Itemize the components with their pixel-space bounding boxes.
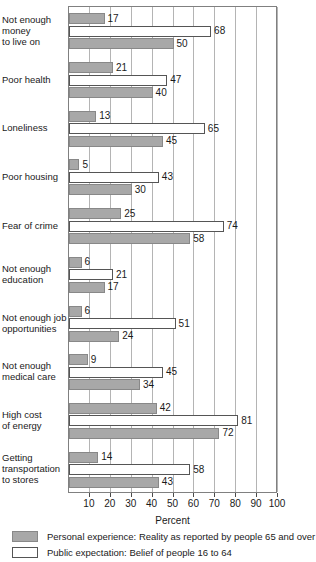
legend-item: Public expectation: Belief of people 16 … xyxy=(12,547,284,558)
category-label-line: Not enough job xyxy=(2,312,68,323)
category-label: Not enoughmoneyto live on xyxy=(2,14,68,47)
bar xyxy=(69,282,105,293)
bar xyxy=(69,269,113,280)
bar-value-label: 65 xyxy=(208,123,219,134)
legend-swatch-gray xyxy=(12,531,38,542)
bar xyxy=(69,111,96,122)
bar-value-label: 58 xyxy=(193,233,204,244)
bar-value-label: 24 xyxy=(122,330,133,341)
category-label-line: education xyxy=(2,274,68,285)
category-label: Not enoughmedical care xyxy=(2,360,68,382)
category-label-line: Not enough xyxy=(2,14,68,25)
bar xyxy=(69,367,163,378)
bar-value-label: 50 xyxy=(177,38,188,49)
bar-value-label: 14 xyxy=(101,451,112,462)
x-tick-mark xyxy=(131,493,132,497)
category-label-line: to live on xyxy=(2,36,68,47)
bar xyxy=(69,184,132,195)
bar xyxy=(69,221,224,232)
category-label: Not enougheducation xyxy=(2,263,68,285)
legend-item: Personal experience: Reality as reported… xyxy=(12,531,284,542)
bar-value-label: 72 xyxy=(222,427,233,438)
plot-area: 1768502147401365455433025745862117651249… xyxy=(68,6,277,493)
bar xyxy=(69,13,105,24)
x-tick-label: 90 xyxy=(245,498,267,509)
bar xyxy=(69,87,153,98)
bar-value-label: 74 xyxy=(227,220,238,231)
bar xyxy=(69,208,121,219)
category-label-line: High cost xyxy=(2,409,68,420)
x-tick-mark xyxy=(214,493,215,497)
bar-value-label: 43 xyxy=(162,171,173,182)
category-label-line: money xyxy=(2,25,68,36)
bar-value-label: 34 xyxy=(143,379,154,390)
plot-wrapper: 1768502147401365455433025745862117651249… xyxy=(0,0,284,500)
bar-value-label: 43 xyxy=(162,476,173,487)
category-label-line: to stores xyxy=(2,474,68,485)
bar xyxy=(69,306,82,317)
bar-value-label: 17 xyxy=(108,281,119,292)
bar-value-label: 42 xyxy=(160,402,171,413)
x-tick-mark xyxy=(152,493,153,497)
bar xyxy=(69,38,174,49)
bar xyxy=(69,257,82,268)
bar xyxy=(69,379,140,390)
bar-value-label: 45 xyxy=(166,135,177,146)
bar-value-label: 30 xyxy=(135,184,146,195)
x-tick-label: 60 xyxy=(182,498,204,509)
x-tick-mark xyxy=(277,493,278,497)
bar-value-label: 21 xyxy=(116,62,127,73)
category-label-line: Getting xyxy=(2,452,68,463)
category-label: Fear of crime xyxy=(2,220,68,231)
gridline-90 xyxy=(256,7,257,492)
bar-value-label: 81 xyxy=(241,415,252,426)
x-tick-label: 20 xyxy=(99,498,121,509)
bar-value-label: 25 xyxy=(124,208,135,219)
bar-value-label: 13 xyxy=(99,110,110,121)
bar-value-label: 51 xyxy=(179,318,190,329)
x-tick-mark xyxy=(89,493,90,497)
bar xyxy=(69,123,205,134)
x-tick-label: 80 xyxy=(224,498,246,509)
category-label-line: transportation xyxy=(2,463,68,474)
chart-legend: Personal experience: Reality as reported… xyxy=(12,531,284,562)
bar xyxy=(69,464,190,475)
category-label-line: opportunities xyxy=(2,323,68,334)
bar xyxy=(69,403,157,414)
category-label: Poor housing xyxy=(2,171,68,182)
x-tick-mark xyxy=(173,493,174,497)
legend-swatch-white xyxy=(12,547,38,558)
x-tick-mark xyxy=(235,493,236,497)
x-tick-label: 30 xyxy=(120,498,142,509)
bar xyxy=(69,428,219,439)
bar xyxy=(69,26,211,37)
bar-value-label: 40 xyxy=(156,87,167,98)
x-tick-mark xyxy=(256,493,257,497)
bar xyxy=(69,62,113,73)
bar-value-label: 68 xyxy=(214,25,225,36)
bar xyxy=(69,331,119,342)
x-tick-mark xyxy=(110,493,111,497)
bar-value-label: 17 xyxy=(108,13,119,24)
category-label-line: Loneliness xyxy=(2,122,68,133)
bar-value-label: 6 xyxy=(85,256,91,267)
bar xyxy=(69,75,167,86)
bar-value-label: 47 xyxy=(170,74,181,85)
category-label-line: Poor housing xyxy=(2,171,68,182)
bar xyxy=(69,415,238,426)
legend-label: Public expectation: Belief of people 16 … xyxy=(47,547,232,558)
x-axis-title: Percent xyxy=(68,515,277,526)
x-tick-label: 10 xyxy=(78,498,100,509)
bar xyxy=(69,136,163,147)
category-label: Not enough jobopportunities xyxy=(2,312,68,334)
category-label-line: Poor health xyxy=(2,74,68,85)
bar-value-label: 45 xyxy=(166,366,177,377)
category-label-line: of energy xyxy=(2,420,68,431)
bar-value-label: 5 xyxy=(82,159,88,170)
category-label: Poor health xyxy=(2,74,68,85)
gridline-100 xyxy=(277,7,278,492)
x-tick-label: 40 xyxy=(141,498,163,509)
category-label-line: Not enough xyxy=(2,263,68,274)
x-tick-label: 100 xyxy=(266,498,288,509)
